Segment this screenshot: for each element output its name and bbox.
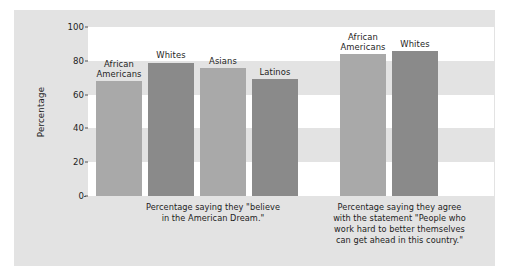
y-tick-label: 60 xyxy=(73,90,84,100)
bar-category-label: Whites xyxy=(383,39,447,49)
y-tick-label: 100 xyxy=(68,22,84,32)
y-tick-label: 40 xyxy=(73,123,84,133)
bar-category-label: Latinos xyxy=(243,67,307,77)
group-caption-1: Percentage saying they agree with the st… xyxy=(302,202,497,246)
y-axis-title-text: Percentage xyxy=(36,86,46,136)
y-tick-label: 80 xyxy=(73,56,84,66)
bar xyxy=(252,79,298,196)
chart-figure: Percentage 020406080100 African American… xyxy=(14,10,495,266)
y-axis-title: Percentage xyxy=(34,27,48,196)
bar xyxy=(148,63,194,197)
bar xyxy=(96,81,142,196)
plot-area: African AmericansWhitesAsiansLatinosAfri… xyxy=(88,27,494,196)
bar xyxy=(200,68,246,196)
x-axis-line xyxy=(84,196,86,197)
bar xyxy=(340,54,386,196)
y-axis: 020406080100 xyxy=(58,27,88,196)
group-caption-0: Percentage saying they "believe in the A… xyxy=(118,202,308,224)
bar-category-label: Asians xyxy=(191,56,255,66)
y-tick-label: 20 xyxy=(73,157,84,167)
bar-category-label: African Americans xyxy=(87,59,151,79)
bar xyxy=(392,51,438,196)
